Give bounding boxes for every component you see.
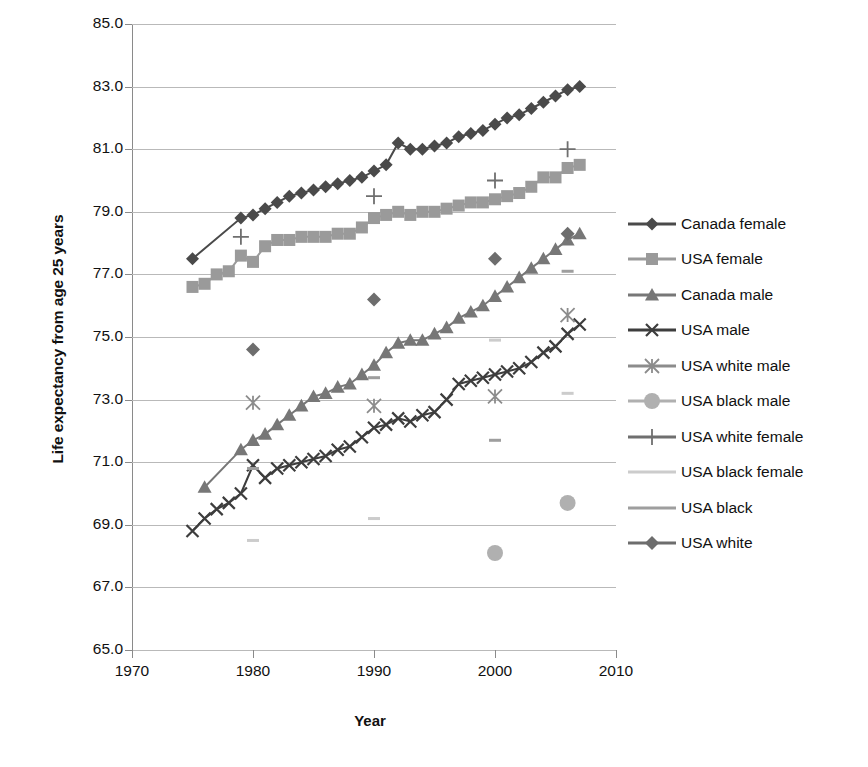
data-point-diamond xyxy=(440,136,453,149)
data-point-x xyxy=(489,369,501,381)
data-point-dash xyxy=(368,376,380,379)
data-point-diamond xyxy=(295,187,308,200)
data-point-asterisk xyxy=(561,308,575,322)
data-point-square xyxy=(537,171,549,183)
y-axis-tick xyxy=(125,400,132,401)
data-point-x xyxy=(477,372,489,384)
data-point-x xyxy=(453,378,465,390)
data-point-triangle xyxy=(234,443,248,456)
chart-page: Life expectancy from age 25 years Year 6… xyxy=(0,0,868,767)
legend-item-usa-black-male[interactable]: USA black male xyxy=(624,384,864,420)
legend-item-usa-white-male[interactable]: USA white male xyxy=(624,348,864,384)
data-point-x xyxy=(441,394,453,406)
data-point-dash-light xyxy=(562,392,574,395)
data-point-x xyxy=(308,453,320,465)
data-point-triangle xyxy=(379,346,393,359)
data-point-square xyxy=(356,221,368,233)
y-axis-tick-label: 83.0 xyxy=(3,77,123,95)
data-point-triangle xyxy=(258,427,272,440)
data-point-diamond xyxy=(404,143,417,156)
chart-legend: Canada femaleUSA femaleCanada maleUSA ma… xyxy=(624,206,864,561)
data-point-triangle xyxy=(428,327,442,340)
x-axis-tick xyxy=(616,650,617,658)
data-point-triangle xyxy=(464,305,478,318)
data-point-plus xyxy=(560,141,576,157)
data-point-square xyxy=(235,250,247,262)
data-point-diamond-small xyxy=(367,292,381,306)
data-point-x xyxy=(465,375,477,387)
data-point-square xyxy=(646,253,658,265)
data-point-triangle xyxy=(246,433,260,446)
data-point-diamond xyxy=(561,83,574,96)
data-point-dash xyxy=(562,270,574,273)
data-point-square xyxy=(223,265,235,277)
data-point-diamond xyxy=(537,96,550,109)
data-point-x xyxy=(525,356,537,368)
data-point-square xyxy=(513,187,525,199)
data-point-square xyxy=(283,234,295,246)
series-line xyxy=(205,234,580,488)
legend-item-label: USA white male xyxy=(680,357,790,375)
legend-item-usa-white-female[interactable]: USA white female xyxy=(624,419,864,455)
legend-item-label: USA white female xyxy=(680,428,803,446)
y-axis-tick-label: 79.0 xyxy=(3,202,123,220)
legend-item-usa-black-female[interactable]: USA black female xyxy=(624,455,864,491)
data-point-square xyxy=(404,209,416,221)
y-axis-tick-label: 65.0 xyxy=(3,640,123,658)
data-point-diamond xyxy=(416,143,429,156)
y-axis-tick xyxy=(125,337,132,338)
data-series-layer xyxy=(132,24,616,650)
legend-item-usa-white[interactable]: USA white xyxy=(624,526,864,562)
data-point-triangle xyxy=(512,271,526,284)
data-point-plus xyxy=(366,188,382,204)
data-point-diamond xyxy=(464,127,477,140)
data-point-circle xyxy=(644,393,660,409)
data-point-x xyxy=(356,431,368,443)
legend-key-asterisk-icon xyxy=(624,356,680,376)
data-point-diamond xyxy=(283,190,296,203)
legend-item-canada-female[interactable]: Canada female xyxy=(624,206,864,242)
legend-item-usa-black[interactable]: USA black xyxy=(624,490,864,526)
data-point-dash xyxy=(489,439,501,442)
legend-item-label: USA black female xyxy=(680,463,803,481)
legend-item-canada-male[interactable]: Canada male xyxy=(624,277,864,313)
x-axis-tick xyxy=(495,650,496,658)
data-point-diamond xyxy=(452,130,465,143)
data-point-square xyxy=(320,231,332,243)
data-point-square xyxy=(259,240,271,252)
data-point-square xyxy=(332,228,344,240)
data-point-x xyxy=(416,409,428,421)
data-point-square xyxy=(477,196,489,208)
data-point-triangle xyxy=(294,399,308,412)
data-point-triangle xyxy=(319,386,333,399)
legend-key-diamond-icon xyxy=(624,214,680,234)
data-point-asterisk xyxy=(246,396,260,410)
data-point-diamond xyxy=(501,111,514,124)
y-axis-tick xyxy=(125,274,132,275)
legend-item-usa-female[interactable]: USA female xyxy=(624,242,864,278)
data-point-square xyxy=(489,193,501,205)
data-point-triangle xyxy=(343,377,357,390)
legend-key-triangle-icon xyxy=(624,285,680,305)
data-point-square xyxy=(525,181,537,193)
data-point-square xyxy=(247,256,259,268)
data-point-diamond xyxy=(573,80,586,93)
data-point-triangle xyxy=(282,408,296,421)
data-point-x xyxy=(235,488,247,500)
legend-item-usa-male[interactable]: USA male xyxy=(624,313,864,349)
data-point-triangle xyxy=(355,368,369,381)
x-axis-tick xyxy=(253,650,254,658)
data-point-diamond-small xyxy=(488,252,502,266)
data-point-x xyxy=(211,503,223,515)
data-point-x xyxy=(380,419,392,431)
data-point-x xyxy=(283,459,295,471)
series-line xyxy=(193,165,580,287)
legend-key-dash-light-icon xyxy=(624,462,680,482)
y-axis-tick xyxy=(125,462,132,463)
data-point-diamond xyxy=(380,158,393,171)
y-axis-tick xyxy=(125,24,132,25)
y-axis-tick xyxy=(125,149,132,150)
data-point-plus xyxy=(487,173,503,189)
data-point-square xyxy=(574,159,586,171)
data-point-diamond xyxy=(319,180,332,193)
